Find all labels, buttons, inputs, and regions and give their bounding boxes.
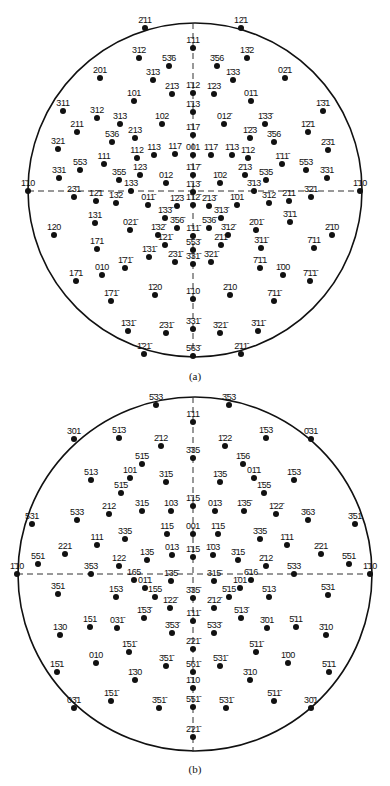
pole-label: 3̄10: [319, 622, 333, 632]
pole-label: 2̄21: [314, 541, 328, 551]
pole-label: 103: [164, 498, 178, 508]
pole-marker: [190, 646, 196, 652]
pole-marker: [169, 630, 175, 636]
pole-marker: [308, 705, 314, 711]
pole-marker: [291, 477, 297, 483]
pole-marker: [217, 663, 223, 669]
pole-label: 315: [135, 498, 149, 508]
pole-marker: [190, 419, 196, 425]
pole-label: 351: [51, 581, 65, 591]
pole-label: 30̄1: [304, 695, 318, 705]
pole-label: 2̄21̄: [186, 724, 200, 734]
pole-label: 031̄: [110, 615, 124, 625]
pole-marker: [87, 624, 93, 630]
pole-marker: [55, 591, 61, 597]
pole-label: 3̄10: [243, 667, 257, 677]
pole-marker: [253, 649, 259, 655]
pole-marker: [118, 490, 124, 496]
pole-label: 335: [118, 526, 132, 536]
pole-label: 2̄21̄: [186, 636, 200, 646]
pole-marker: [139, 508, 145, 514]
pole-marker: [108, 698, 114, 704]
pole-marker: [190, 595, 196, 601]
caption-b: (b): [0, 763, 390, 775]
pole-label: 3̄51: [348, 511, 362, 521]
pole-marker: [217, 479, 223, 485]
pole-marker: [190, 554, 196, 560]
pole-label: 1̄00: [281, 650, 295, 660]
pole-label: 2̄12: [259, 553, 273, 563]
pole-marker: [139, 461, 145, 467]
pole-marker: [352, 521, 358, 527]
pole-marker: [74, 517, 80, 523]
pole-marker: [211, 630, 217, 636]
pole-label: 1̄51̄: [122, 639, 136, 649]
pole-label: 3̄51̄: [159, 653, 173, 663]
pole-marker: [291, 571, 297, 577]
pole-label: 1̄55: [257, 480, 271, 490]
pole-label: 1̄56: [236, 451, 250, 461]
pole-marker: [54, 669, 60, 675]
pole-label: 1̄15: [186, 544, 200, 554]
pole-label: 01̄1: [247, 465, 261, 475]
pole-marker: [226, 594, 232, 600]
pole-marker: [261, 490, 267, 496]
pole-marker: [235, 557, 241, 563]
pole-label: 153: [109, 584, 123, 594]
pole-marker: [168, 578, 174, 584]
pole-label: 531: [25, 511, 39, 521]
pole-marker: [158, 443, 164, 449]
pole-label: 353: [84, 561, 98, 571]
pole-marker: [88, 571, 94, 577]
pole-label: 301: [67, 426, 81, 436]
pole-marker: [190, 704, 196, 710]
pole-label: 51̄5: [135, 451, 149, 461]
pole-label: 2̄12̄: [207, 595, 221, 605]
pole-marker: [116, 435, 122, 441]
pole-label: 3̄01: [260, 615, 274, 625]
pole-marker: [190, 734, 196, 740]
pole-label: 5̄33: [149, 392, 163, 402]
pole-marker: [237, 585, 243, 591]
pole-marker: [211, 578, 217, 584]
pole-label: 122: [112, 553, 126, 563]
pole-label: 130: [53, 622, 67, 632]
pole-label: 5̄33̄: [207, 620, 221, 630]
pole-label: 3̄53: [222, 392, 236, 402]
pole-label: 1̄53: [287, 467, 301, 477]
pole-label: 1̄03: [206, 542, 220, 552]
pole-marker: [210, 552, 216, 558]
pole-marker: [144, 557, 150, 563]
pole-label: 1̄35̄: [164, 568, 178, 578]
pole-marker: [141, 615, 147, 621]
pole-label: 3̄51̄: [152, 695, 166, 705]
pole-marker: [88, 477, 94, 483]
pole-label: 111: [91, 532, 104, 542]
pole-label: 1̄15: [211, 521, 225, 531]
pole-label: 5̄11̄: [249, 639, 262, 649]
pole-marker: [305, 517, 311, 523]
pole-marker: [14, 571, 20, 577]
pole-label: 115: [160, 521, 173, 531]
pole-marker: [167, 605, 173, 611]
pole-label: 1̄35̄: [237, 498, 251, 508]
pole-label: 1̄51̄: [104, 688, 118, 698]
pole-label: 5̄13: [262, 584, 276, 594]
pole-marker: [122, 536, 128, 542]
pole-marker: [323, 632, 329, 638]
pole-marker: [308, 436, 314, 442]
pole-label: 155: [148, 584, 162, 594]
pole-marker: [247, 677, 253, 683]
pole-label: 3̄35̄: [186, 585, 200, 595]
pole-label: 101: [123, 465, 137, 475]
pole-marker: [241, 508, 247, 514]
pole-marker: [346, 561, 352, 567]
pole-marker: [113, 594, 119, 600]
pole-marker: [240, 461, 246, 467]
pole-marker: [126, 649, 132, 655]
pole-marker: [266, 594, 272, 600]
pole-marker: [223, 705, 229, 711]
pole-label: 1̄11: [186, 409, 199, 419]
pole-label: 5̄61̄: [186, 659, 200, 669]
pole-label: 533: [70, 507, 84, 517]
